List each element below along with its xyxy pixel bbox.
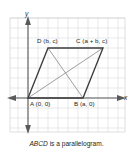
y-axis-arrow-down (25, 125, 31, 134)
vertex-label-b: B (a, 0) (74, 101, 95, 107)
vertex-label-d: D (b, c) (37, 38, 58, 44)
x-axis-label: x (124, 95, 127, 102)
y-axis-label: y (25, 11, 28, 18)
y-axis (25, 16, 31, 134)
coordinate-plane-svg (0, 0, 133, 138)
parallelogram-diagonals (28, 48, 103, 98)
x-axis-arrow-left (7, 95, 16, 101)
coordinate-plane (0, 0, 133, 138)
vertex-label-c: C (a + b, c) (76, 38, 107, 44)
figure-caption: ABCD is a parallelogram. (0, 140, 133, 147)
vertex-label-a: A (0, 0) (30, 101, 50, 107)
grid-lines (10, 18, 125, 132)
caption-text: is a parallelogram. (48, 140, 104, 147)
parallelogram-figure: y x D (b, c) C (a + b, c) A (0, 0) B (a,… (0, 0, 133, 156)
caption-shape-name: ABCD (29, 140, 47, 147)
